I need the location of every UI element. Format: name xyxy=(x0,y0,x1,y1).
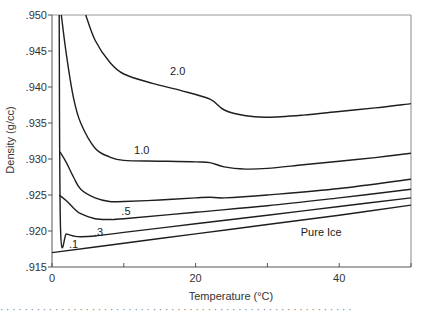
curve-2-0 xyxy=(86,15,411,117)
x-tick-label: 0 xyxy=(49,272,55,284)
x-axis-title: Temperature (°C) xyxy=(189,290,273,302)
curve-label: 2.0 xyxy=(170,65,185,77)
curve-label: .1 xyxy=(69,238,78,250)
curve-label: Pure Ice xyxy=(301,226,342,238)
y-tick-label: .915 xyxy=(26,261,47,273)
density-temperature-chart: .915.920.925.930.935.940.945.95002040 2.… xyxy=(0,0,421,313)
curve-1-0 xyxy=(61,15,411,169)
y-tick-label: .950 xyxy=(26,9,47,21)
curve-label: .3 xyxy=(94,226,103,238)
curve-label: .5 xyxy=(121,205,130,217)
y-tick-label: .925 xyxy=(26,189,47,201)
caption-fragment: · · · · · · · · · · · · · · · · · · · · … xyxy=(0,304,421,313)
y-tick-label: .945 xyxy=(26,45,47,57)
y-tick-label: .940 xyxy=(26,81,47,93)
curves xyxy=(52,15,411,253)
y-tick-label: .935 xyxy=(26,117,47,129)
y-axis-title: Density (g/cc) xyxy=(4,106,16,173)
x-tick-label: 40 xyxy=(333,272,345,284)
y-tick-label: .930 xyxy=(26,153,47,165)
x-tick-label: 20 xyxy=(189,272,201,284)
curve-label: 1.0 xyxy=(134,144,149,156)
axes: .915.920.925.930.935.940.945.95002040 xyxy=(26,9,411,284)
y-tick-label: .920 xyxy=(26,225,47,237)
curve-pure-ice xyxy=(52,205,411,253)
